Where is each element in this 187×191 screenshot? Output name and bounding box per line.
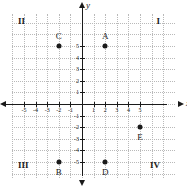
gridline-vertical <box>128 14 129 178</box>
point-c <box>56 44 61 49</box>
point-label-c: C <box>56 32 62 41</box>
gridline-vertical <box>24 14 25 178</box>
y-axis-tick-label: -2 <box>74 124 79 130</box>
point-b <box>56 160 61 165</box>
x-axis-arrow-left <box>0 101 6 107</box>
x-axis-tick-label: 3 <box>115 107 118 113</box>
y-axis-tick-label: 4 <box>76 55 79 61</box>
y-axis-tick-label: 5 <box>76 43 79 49</box>
quadrant-label-iv: IV <box>150 161 160 170</box>
x-axis-tick-label: -2 <box>56 107 61 113</box>
gridline-horizontal <box>12 46 175 47</box>
y-axis-tick <box>80 46 85 47</box>
x-axis-tick-label: 2 <box>104 107 107 113</box>
x-axis-tick-label: -1 <box>68 107 73 113</box>
y-axis-tick <box>80 58 85 59</box>
y-axis-arrow-down <box>79 180 85 186</box>
x-axis-tick-label: 5 <box>139 107 142 113</box>
y-axis-tick <box>80 150 85 151</box>
y-axis-tick-label: 1 <box>76 89 79 95</box>
y-axis-tick-label: 3 <box>76 66 79 72</box>
point-d <box>103 160 108 165</box>
y-axis-tick-label: -4 <box>74 147 79 153</box>
x-axis-tick-label: -4 <box>33 107 38 113</box>
y-axis-label: y <box>86 1 90 10</box>
y-axis-tick <box>80 81 85 82</box>
x-axis-tick-label: 4 <box>127 107 130 113</box>
y-axis-tick-label: -1 <box>74 113 79 119</box>
gridline-vertical <box>163 14 164 178</box>
grid <box>12 14 175 178</box>
gridline-horizontal <box>12 58 175 59</box>
gridline-horizontal <box>12 23 175 24</box>
gridline-horizontal <box>12 92 175 93</box>
gridline-vertical <box>70 14 71 178</box>
point-label-d: D <box>102 168 109 177</box>
point-label-a: A <box>102 32 109 41</box>
gridline-horizontal <box>12 34 175 35</box>
point-label-b: B <box>56 168 62 177</box>
x-axis <box>4 104 167 105</box>
y-axis-tick-label: -3 <box>74 136 79 142</box>
y-axis-tick <box>80 92 85 93</box>
gridline-vertical <box>140 14 141 178</box>
gridline-vertical <box>117 14 118 178</box>
y-axis-tick-label: 2 <box>76 78 79 84</box>
gridline-vertical <box>94 14 95 178</box>
coordinate-plane: x y -5-4-3-2-11234554321-1-2-3-4-5 IIIII… <box>0 0 187 191</box>
x-axis-tick-label: -3 <box>45 107 50 113</box>
y-axis-tick <box>80 116 85 117</box>
quadrant-label-iii: III <box>18 161 29 170</box>
quadrant-label-ii: II <box>18 17 25 26</box>
y-axis-tick <box>80 162 85 163</box>
gridline-horizontal <box>12 81 175 82</box>
y-axis-tick <box>80 139 85 140</box>
y-axis-tick <box>80 127 85 128</box>
point-a <box>103 44 108 49</box>
y-axis-tick-label: -5 <box>74 159 79 165</box>
gridline-vertical <box>36 14 37 178</box>
gridline-vertical <box>152 14 153 178</box>
gridline-vertical <box>47 14 48 178</box>
gridline-horizontal <box>12 69 175 70</box>
quadrant-label-i: I <box>156 17 160 26</box>
point-e <box>138 125 143 130</box>
x-axis-arrow-right <box>178 101 184 107</box>
gridline-vertical <box>12 14 13 178</box>
x-axis-tick-label: -5 <box>22 107 27 113</box>
y-axis-tick <box>80 69 85 70</box>
y-axis-arrow-up <box>79 2 85 8</box>
x-axis-label: x <box>186 99 187 108</box>
x-axis-tick-label: 1 <box>92 107 95 113</box>
point-label-e: E <box>137 133 143 142</box>
